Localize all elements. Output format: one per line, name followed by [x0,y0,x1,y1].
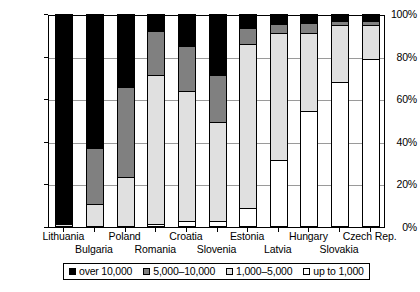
legend-swatch-icon [143,268,150,275]
bar-segment [270,160,288,227]
bar-segment [209,122,227,221]
bar-segment [362,14,380,21]
bar-segment [239,208,257,227]
segment-divider [270,24,288,25]
bar-segment [147,75,165,224]
legend-item: 5,000–10,000 [143,266,215,277]
bar-segment [300,33,318,111]
bar-slovenia [209,14,227,227]
segment-divider [55,224,73,225]
segment-divider [239,28,257,29]
bar-segment [362,59,380,227]
bar-slovakia [331,14,349,227]
bar-segment [86,14,104,148]
bar-segment [117,177,135,227]
segment-divider [178,91,196,92]
bar-segment [147,14,165,31]
bar-segment [270,24,288,34]
chart-legend: over 10,0005,000–10,0001,000–5,000up to … [63,263,370,280]
segment-divider [300,23,318,24]
legend-swatch-icon [69,268,76,275]
legend-swatch-icon [226,268,233,275]
bar-bulgaria [86,14,104,227]
segment-divider [209,221,227,222]
legend-label: 5,000–10,000 [153,266,215,277]
x-axis-label: Slovakia [289,244,389,255]
bar-segment [239,28,257,44]
legend-item: 1,000–5,000 [226,266,292,277]
bar-segment [178,14,196,46]
segment-divider [331,25,349,26]
legend-label: over 10,000 [79,266,132,277]
bar-segment [117,87,135,176]
segment-divider [300,33,318,34]
x-axis-label: Czech Rep. [320,231,420,242]
bar-segment [239,14,257,28]
segment-divider [147,224,165,225]
bar-segment [331,82,349,227]
segment-divider [362,59,380,60]
segment-divider [117,177,135,178]
bar-segment [331,25,349,83]
bar-segment [270,14,288,24]
segment-divider [117,87,135,88]
segment-divider [147,31,165,32]
segment-divider [270,33,288,34]
segment-divider [362,21,380,22]
bar-segment [362,25,380,59]
bar-latvia [270,14,288,227]
segment-divider [209,75,227,76]
segment-divider [209,122,227,123]
legend-item: over 10,000 [69,266,132,277]
segment-divider [178,221,196,222]
bar-segment [209,14,227,75]
bar-segment [300,23,318,34]
segment-divider [362,25,380,26]
segment-divider [86,148,104,149]
bar-estonia [239,14,257,227]
bar-hungary [300,14,318,227]
segment-divider [331,21,349,22]
legend-label: 1,000–5,000 [236,266,292,277]
bar-romania [147,14,165,227]
bar-lithuania [55,14,73,227]
segment-divider [331,82,349,83]
segment-divider [239,208,257,209]
segment-divider [270,160,288,161]
legend-label: up to 1,000 [313,266,363,277]
bar-segment [331,14,349,21]
segment-divider [178,46,196,47]
segment-divider [147,75,165,76]
segment-divider [239,44,257,45]
bar-segment [86,204,104,227]
bar-segment [178,91,196,222]
bar-segment [117,14,135,87]
plot-area [48,15,385,228]
bar-segment [239,44,257,208]
bar-croatia [178,14,196,227]
bar-segment [86,148,104,203]
bar-segment [300,14,318,23]
bar-segment [300,111,318,227]
bar-segment [270,33,288,160]
segment-divider [300,111,318,112]
bar-segment [55,14,73,224]
bar-czech-rep [362,14,380,227]
segment-divider [86,204,104,205]
bar-segment [178,46,196,91]
bar-poland [117,14,135,227]
legend-swatch-icon [303,268,310,275]
bar-segment [209,75,227,122]
bar-segment [147,31,165,75]
legend-item: up to 1,000 [303,266,363,277]
